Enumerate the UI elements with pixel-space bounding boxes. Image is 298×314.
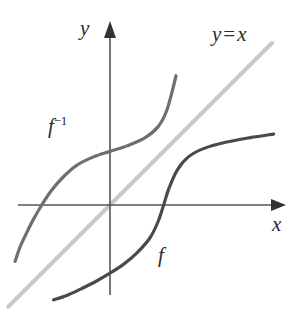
identity-line-label: y=x	[212, 24, 247, 45]
identity-line	[8, 43, 272, 307]
f-inverse-curve-label: f−1	[48, 114, 67, 137]
plot-canvas	[0, 0, 298, 314]
inverse-function-figure: y x f−1 f y=x	[0, 0, 298, 314]
f-label-text: f	[158, 243, 164, 267]
identity-label-equals: =	[221, 22, 237, 46]
identity-label-x: x	[237, 22, 246, 46]
f-inverse-label-exponent: −1	[54, 113, 67, 128]
x-axis-arrow-icon	[271, 199, 286, 211]
identity-label-y: y	[212, 22, 221, 46]
f-curve-label: f	[158, 245, 164, 266]
x-axis-label: x	[272, 214, 281, 235]
y-axis-label: y	[80, 18, 89, 39]
x-axis-label-text: x	[272, 212, 281, 236]
y-axis-arrow-icon	[104, 21, 116, 38]
y-axis-label-text: y	[80, 16, 89, 40]
